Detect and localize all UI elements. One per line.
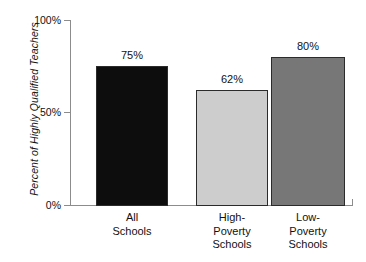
- bar-chart: Percent of Highly Qualified Teachers 100…: [0, 0, 366, 262]
- x-category-label-high-poverty-schools: High- Poverty Schools: [192, 211, 272, 252]
- y-tick-label-50: 50%: [40, 106, 61, 118]
- y-tick-label-0: 0%: [46, 199, 61, 211]
- y-axis-line: [70, 20, 71, 206]
- bar-value-low-poverty-schools: 80%: [271, 40, 345, 52]
- cat-line: All: [92, 211, 172, 225]
- cat-line: Poverty: [192, 225, 272, 239]
- cat-line: Schools: [268, 238, 348, 252]
- y-tick-50: 50%: [0, 106, 61, 118]
- y-tick-100: 100%: [0, 14, 61, 26]
- bar-low-poverty-schools: [271, 57, 345, 206]
- bar-high-poverty-schools: [196, 90, 268, 206]
- cat-line: Schools: [92, 225, 172, 239]
- x-category-label-low-poverty-schools: Low- Poverty Schools: [268, 211, 348, 252]
- cat-line: Low-: [268, 211, 348, 225]
- x-category-label-all-schools: All Schools: [92, 211, 172, 238]
- y-tick-label-100: 100%: [34, 14, 61, 26]
- cat-line: Schools: [192, 238, 272, 252]
- cat-line: Poverty: [268, 225, 348, 239]
- bar-value-all-schools: 75%: [96, 49, 168, 61]
- y-tick-0: 0%: [0, 199, 61, 211]
- cat-line: High-: [192, 211, 272, 225]
- bar-value-high-poverty-schools: 62%: [196, 73, 268, 85]
- bar-all-schools: [96, 66, 168, 206]
